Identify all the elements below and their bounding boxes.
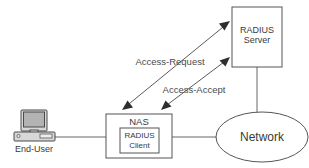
node-end-user[interactable]: End-User [14,110,55,154]
desktop-computer-icon [14,110,55,141]
node-nas[interactable]: NAS RADIUS Client [106,114,172,158]
network-label: Network [240,130,285,144]
access-accept-arrowhead-server [220,57,231,67]
radius-server-label-line1: RADIUS [240,25,274,35]
end-user-label: End-User [15,144,53,154]
computer-power-led [17,134,20,137]
edge-label-access-request: Access-Request [135,56,205,67]
computer-base-drive-slot [40,134,52,138]
node-network[interactable]: Network [216,112,308,162]
radius-client-label-line2: Client [129,141,150,150]
node-radius-client[interactable]: RADIUS Client [120,128,159,153]
radius-flow-diagram: Access-Request Access-Accept RADIUS Serv… [0,0,309,168]
radius-client-label-line1: RADIUS [124,131,154,140]
edge-label-access-accept: Access-Accept [163,84,226,95]
monitor-screen [24,112,45,127]
access-accept-arrowhead-nas [161,101,172,111]
nas-label: NAS [129,116,149,127]
diagram-canvas: Access-Request Access-Accept RADIUS Serv… [0,0,309,168]
radius-server-label-line2: Server [244,35,271,45]
node-radius-server[interactable]: RADIUS Server [232,7,282,67]
